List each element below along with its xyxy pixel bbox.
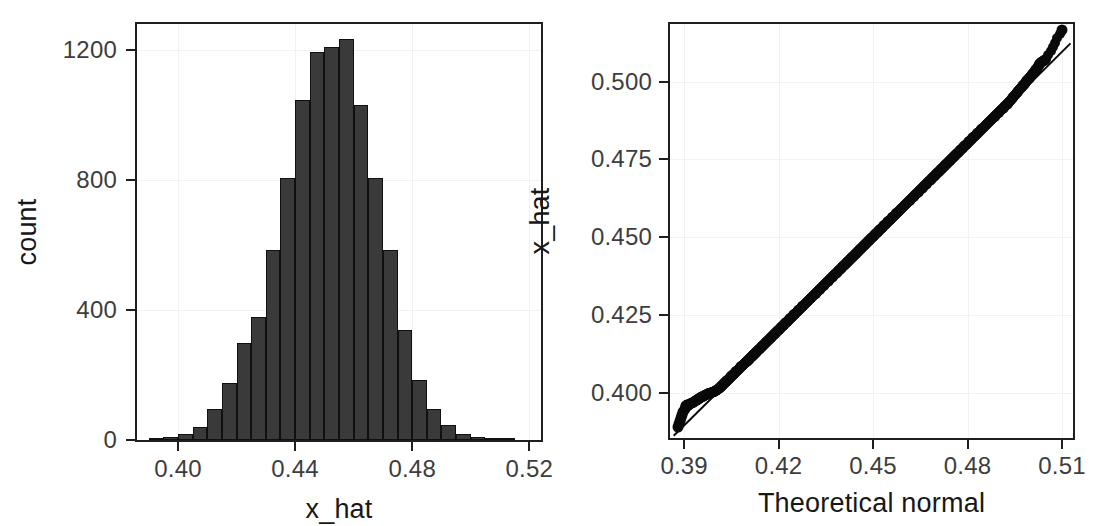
histogram-y-tick [126, 309, 135, 311]
grid-line-vertical-1 [779, 24, 780, 438]
histogram-bar [500, 438, 515, 441]
histogram-bar [471, 437, 486, 440]
histogram-bar [280, 178, 295, 440]
histogram-bar [310, 52, 325, 440]
grid-line-vertical-3 [968, 24, 969, 438]
histogram-bar [339, 39, 354, 440]
histogram-bar [237, 343, 252, 441]
qq-y-tick-label: 0.425 [560, 301, 652, 329]
histogram-bar [398, 330, 413, 441]
qq-y-tick [659, 158, 668, 160]
histogram-x-tick [294, 442, 296, 451]
histogram-bar [207, 409, 222, 440]
qq-y-tick [659, 392, 668, 394]
grid-line-vertical-4 [1062, 24, 1063, 438]
histogram-bar [412, 380, 427, 440]
histogram-y-tick-label: 1200 [17, 36, 117, 64]
histogram-y-tick [126, 49, 135, 51]
histogram-panel: 04008001200 0.400.440.480.52 x_hat count [0, 0, 556, 526]
histogram-bar [485, 438, 500, 441]
qq-y-tick-label: 0.450 [560, 223, 652, 251]
qq-x-tick [872, 440, 874, 449]
histogram-bar [427, 409, 442, 440]
qq-y-tick-label: 0.475 [560, 145, 652, 173]
grid-line-vertical-0 [178, 24, 179, 440]
qq-x-tick [683, 440, 685, 449]
grid-line-horizontal-0 [670, 393, 1073, 394]
histogram-plot-area [135, 22, 543, 442]
histogram-bar [149, 438, 164, 441]
histogram-bar [368, 178, 383, 440]
grid-line-horizontal-3 [670, 159, 1073, 160]
histogram-bar [251, 317, 266, 441]
qq-plot-area [668, 22, 1075, 440]
histogram-bar [441, 425, 456, 440]
histogram-bar [295, 100, 310, 440]
histogram-x-tick-label: 0.52 [506, 455, 554, 483]
qq-point [1056, 25, 1067, 36]
histogram-y-axis-title: count [12, 198, 43, 265]
figure-two-panel-diagnostics: 04008001200 0.400.440.480.52 x_hat count… [0, 0, 1113, 526]
histogram-x-tick [411, 442, 413, 451]
qq-y-tick [659, 81, 668, 83]
histogram-bar [324, 47, 339, 440]
histogram-x-axis-title: x_hat [305, 494, 372, 525]
qq-y-tick-label: 0.500 [560, 68, 652, 96]
qq-y-tick-label: 0.400 [560, 379, 652, 407]
histogram-y-tick-label: 800 [17, 166, 117, 194]
qq-y-tick [659, 314, 668, 316]
qq-x-tick [1061, 440, 1063, 449]
histogram-bar [354, 105, 369, 440]
histogram-y-tick [126, 439, 135, 441]
histogram-bar [178, 434, 193, 440]
histogram-x-tick-label: 0.40 [154, 455, 202, 483]
qq-x-axis-title: Theoretical normal [758, 488, 985, 519]
histogram-bar [163, 437, 178, 440]
qq-x-tick-label: 0.45 [849, 452, 897, 480]
histogram-x-tick [528, 442, 530, 451]
qq-x-tick-label: 0.48 [944, 452, 992, 480]
qq-x-tick-label: 0.42 [755, 452, 803, 480]
qq-y-axis-title: x_hat [525, 187, 556, 254]
qq-panel: 0.4000.4250.4500.4750.500 0.390.420.450.… [556, 0, 1112, 526]
histogram-bar [193, 427, 208, 440]
histogram-bar [456, 434, 471, 440]
grid-line-horizontal-0 [137, 440, 541, 441]
histogram-x-tick-label: 0.48 [388, 455, 436, 483]
qq-x-tick-label: 0.39 [660, 452, 708, 480]
grid-line-horizontal-1 [670, 315, 1073, 316]
grid-line-horizontal-4 [670, 82, 1073, 83]
qq-x-tick [778, 440, 780, 449]
histogram-y-tick-label: 400 [17, 296, 117, 324]
histogram-bar [383, 250, 398, 440]
grid-line-vertical-0 [684, 24, 685, 438]
histogram-bar [222, 383, 237, 440]
histogram-y-tick [126, 179, 135, 181]
qq-x-tick-label: 0.51 [1038, 452, 1086, 480]
grid-line-vertical-2 [412, 24, 413, 440]
histogram-bar [266, 250, 281, 440]
histogram-x-tick [177, 442, 179, 451]
qq-y-tick [659, 236, 668, 238]
histogram-x-tick-label: 0.44 [271, 455, 319, 483]
histogram-y-tick-label: 0 [17, 426, 117, 454]
qq-x-tick [967, 440, 969, 449]
